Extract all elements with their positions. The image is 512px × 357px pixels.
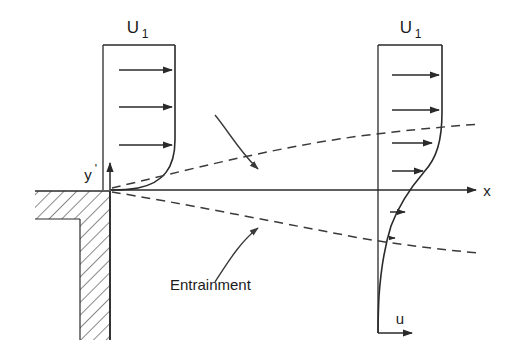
y-axis-prime-label: ': [95, 162, 97, 176]
entrainment-label: Entrainment: [170, 276, 252, 293]
u-axis-label: u: [396, 310, 404, 327]
left-profile-station: [103, 45, 175, 190]
wall-hatch-fill: [35, 191, 110, 340]
left-u1-subscript: 1: [142, 27, 149, 41]
wall-hatched-region: [35, 191, 110, 340]
left-velocity-profile-curve: [111, 45, 175, 190]
y-axis-label: y: [84, 166, 92, 183]
jet-entrainment-diagram: x y ' U 1: [0, 0, 512, 357]
left-u1-label: U: [127, 18, 139, 37]
entrainment-lower-arrow: [215, 228, 258, 282]
right-u1-label: U: [400, 18, 412, 37]
upper-shear-layer-edge: [112, 124, 480, 188]
right-u1-subscript: 1: [415, 27, 422, 41]
right-velocity-profile-curve: [378, 45, 442, 333]
x-axis-label: x: [483, 182, 491, 199]
entrainment-upper-arrow: [215, 115, 258, 169]
right-profile-station: [378, 45, 442, 333]
figure-canvas: x y ' U 1: [0, 0, 512, 357]
lower-shear-layer-edge: [112, 192, 480, 253]
